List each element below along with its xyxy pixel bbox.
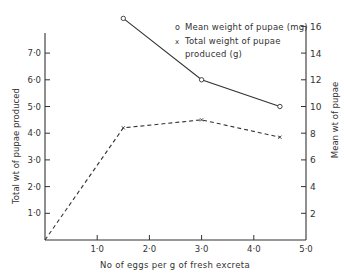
legend: o Mean weight of pupae (mg) x Total weig…	[175, 22, 308, 59]
ticks: 1·02·03·04·05·01·02·03·04·05·06·07·02468…	[27, 22, 321, 254]
y-right-tick-label: 12	[310, 75, 321, 85]
circle-marker	[278, 104, 282, 108]
x-tick-label: 2·0	[143, 244, 157, 254]
y-left-tick-label: 2·0	[27, 182, 41, 192]
y-right-tick-label: 8	[310, 129, 316, 139]
y-left-tick-label: 7·0	[27, 48, 41, 58]
circle-marker	[121, 16, 125, 20]
cross-marker	[122, 126, 125, 129]
legend-item-total-weight-line1: Total weight of pupae	[184, 36, 281, 46]
y-right-tick-label: 14	[310, 49, 322, 59]
y-right-tick-label: 2	[310, 209, 316, 219]
legend-marker-cross: x	[175, 38, 179, 46]
x-axis-label: No of eggs per g of fresh excreta	[100, 260, 250, 270]
y-right-tick-label: 16	[310, 22, 322, 32]
y-axis-left-label: Total wt of pupae produced	[11, 88, 21, 205]
axes	[45, 26, 306, 240]
series-group	[45, 16, 282, 240]
circle-marker	[199, 78, 203, 82]
y-left-tick-label: 4·0	[27, 128, 41, 138]
cross-marker	[200, 118, 203, 121]
y-left-tick-label: 5·0	[27, 102, 41, 112]
x-tick-label: 3·0	[195, 244, 209, 254]
y-right-tick-label: 4	[310, 182, 316, 192]
x-tick-label: 1·0	[90, 244, 104, 254]
x-tick-label: 4·0	[247, 244, 261, 254]
y-left-tick-label: 1·0	[27, 208, 41, 218]
y-left-tick-label: 6·0	[27, 75, 41, 85]
legend-item-total-weight-line2: produced (g)	[185, 49, 242, 59]
y-axis-right-label: Mean wt of pupae	[330, 82, 340, 158]
y-left-tick-label: 3·0	[27, 155, 41, 165]
y-right-tick-label: 6	[310, 155, 316, 165]
chart-canvas: 1·02·03·04·05·01·02·03·04·05·06·07·02468…	[0, 0, 344, 278]
x-tick-label: 5·0	[299, 244, 313, 254]
y-right-tick-label: 10	[310, 102, 322, 112]
legend-marker-circle: o	[175, 23, 180, 32]
legend-item-mean-weight: Mean weight of pupae (mg)	[185, 22, 308, 32]
total-weight-line	[45, 120, 280, 240]
